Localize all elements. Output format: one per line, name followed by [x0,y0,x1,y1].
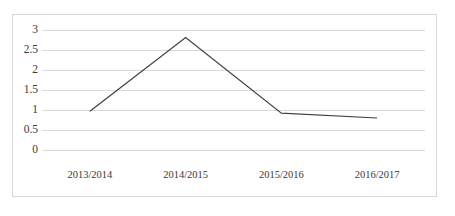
y-axis-tick-labels: 00.511.522.53 [0,0,38,216]
gridline [42,110,425,111]
gridline [42,70,425,71]
gridline [42,50,425,51]
x-axis-tick-label: 2014/2015 [163,170,208,181]
y-axis-tick-label: 1.5 [4,84,38,96]
x-axis-category-labels: 2013/20142014/20152015/20162016/2017 [42,170,425,188]
gridline [42,90,425,91]
chart-figure: 00.511.522.53 2013/20142014/20152015/201… [0,0,455,216]
x-axis-tick-label: 2013/2014 [67,170,112,181]
y-axis-tick-label: 0 [4,144,38,156]
y-axis-tick-label: 1 [4,104,38,116]
y-axis-tick-label: 2.5 [4,44,38,56]
y-axis-tick-label: 2 [4,64,38,76]
gridline [42,130,425,131]
x-axis-tick-label: 2016/2017 [355,170,400,181]
gridline [42,150,425,151]
gridline [42,30,425,31]
y-axis-tick-label: 0.5 [4,124,38,136]
x-axis-tick-label: 2015/2016 [259,170,304,181]
y-axis-tick-label: 3 [4,24,38,36]
